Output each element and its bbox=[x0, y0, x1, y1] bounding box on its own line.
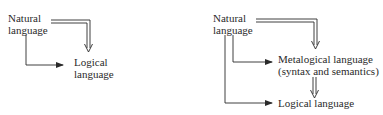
right-double-arrow-metalogical-logical bbox=[311, 77, 319, 98]
right-node-metalogical-language: Metalogical language (syntax and semanti… bbox=[278, 53, 379, 77]
left-single-arrow bbox=[26, 35, 63, 65]
right-double-arrow-natural-metalogical bbox=[256, 19, 320, 49]
right-single-arrow-natural-logical bbox=[225, 35, 272, 103]
left-node-natural-language: Natural language bbox=[8, 12, 48, 36]
right-natural-line2: language bbox=[213, 24, 253, 36]
left-logical-line2: language bbox=[74, 68, 114, 80]
right-single-arrow-natural-metalogical bbox=[233, 35, 272, 62]
left-node-logical-language: Logical language bbox=[74, 56, 114, 80]
left-natural-line2: language bbox=[8, 24, 48, 36]
right-natural-line1: Natural bbox=[213, 12, 253, 24]
left-natural-line1: Natural bbox=[8, 12, 48, 24]
left-logical-line1: Logical bbox=[74, 56, 114, 68]
right-node-natural-language: Natural language bbox=[213, 12, 253, 36]
right-logical-line1: Logical language bbox=[278, 97, 354, 109]
right-node-logical-language: Logical language bbox=[278, 97, 354, 109]
metalogical-line1: Metalogical language bbox=[278, 53, 379, 65]
left-double-arrow bbox=[51, 20, 93, 52]
metalogical-line2: (syntax and semantics) bbox=[278, 65, 379, 77]
